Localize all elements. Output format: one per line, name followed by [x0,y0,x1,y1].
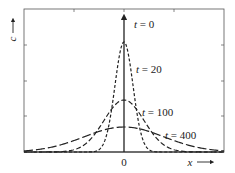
curve-label-t0: t = 0 [134,18,155,30]
diffusion-diagram: c 0 x t = 0t = 20t = 100t = 400 [0,0,235,173]
origin-label: 0 [121,156,127,168]
y-axis-label: c [6,20,18,41]
curve-label-t400: t = 400 [165,129,197,141]
x-axis-label: x [187,156,212,168]
curve-label-t100: t = 100 [142,106,174,118]
x-axis-label-text: x [187,156,193,168]
curve-label-t20: t = 20 [136,63,162,75]
y-axis-label-text: c [6,36,18,41]
